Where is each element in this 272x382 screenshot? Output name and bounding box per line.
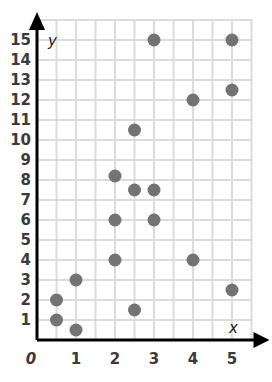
data-point [109,254,122,267]
y-tick-label: 1 [21,311,31,329]
data-point [128,124,141,137]
x-tick-label: 0 [26,350,36,368]
data-points [50,34,239,337]
x-tick-label: 2 [110,350,120,368]
data-point [128,184,141,197]
y-tick-label: 15 [10,31,31,49]
y-tick-label: 8 [21,171,31,189]
data-point [148,184,161,197]
y-tick-label: 4 [21,251,31,269]
x-axis-label: x [228,319,238,337]
y-tick-label: 13 [10,71,31,89]
data-point [50,294,63,307]
x-tick-label: 5 [227,350,237,368]
x-tick-label: 3 [149,350,159,368]
y-tick-label: 11 [10,111,31,129]
y-tick-label: 7 [21,191,31,209]
data-point [226,84,239,97]
grid [37,20,252,340]
y-tick-label: 14 [10,51,31,69]
data-point [70,274,83,287]
y-tick-label: 12 [10,91,31,109]
data-point [226,34,239,47]
data-point [109,170,122,183]
y-tick-label: 5 [21,231,31,249]
y-tick-label: 3 [21,271,31,289]
y-tick-label: 9 [21,151,31,169]
data-point [148,214,161,227]
scatter-plot: 012345123456789101112131415 x y [0,0,272,382]
x-tick-label: 1 [71,350,81,368]
y-tick-label: 6 [21,211,31,229]
data-point [187,94,200,107]
y-axis-label: y [47,32,58,50]
data-point [148,34,161,47]
data-point [187,254,200,267]
data-point [109,214,122,227]
y-tick-label: 10 [10,131,31,149]
x-tick-label: 4 [188,350,198,368]
data-point [226,284,239,297]
data-point [50,314,63,327]
data-point [128,304,141,317]
y-tick-label: 2 [21,291,31,309]
data-point [70,324,83,337]
